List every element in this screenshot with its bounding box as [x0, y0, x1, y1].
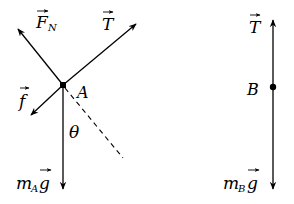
normal-force-arrow [18, 29, 63, 85]
point-a-dot [60, 82, 66, 88]
body-a-diagram: F N T f A θ m A g [16, 11, 136, 194]
svg-text:T: T [249, 17, 262, 37]
tension-label-b: T [249, 15, 262, 37]
svg-text:T: T [102, 14, 115, 34]
weight-label-b: m B g [223, 170, 259, 194]
svg-text:A: A [30, 183, 38, 194]
angle-theta-label: θ [69, 122, 79, 142]
free-body-diagram: F N T f A θ m A g T [0, 0, 294, 204]
friction-force-arrow [31, 85, 63, 115]
svg-text:m: m [16, 173, 32, 193]
body-b-diagram: T B m B g [223, 15, 276, 194]
svg-text:m: m [223, 173, 239, 193]
normal-force-label: F N [35, 11, 58, 33]
svg-text:f: f [17, 91, 28, 111]
svg-text:N: N [47, 22, 58, 33]
tension-label-a: T [102, 12, 115, 34]
svg-text:g: g [39, 173, 50, 193]
weight-label-a: m A g [16, 170, 51, 194]
friction-label: f [17, 88, 29, 111]
svg-text:B: B [237, 183, 245, 194]
point-b-dot [270, 84, 276, 90]
svg-text:g: g [247, 173, 258, 193]
point-a-label: A [75, 83, 89, 102]
point-b-label: B [246, 80, 259, 99]
tension-force-arrow-a [63, 24, 136, 85]
svg-text:F: F [35, 12, 49, 32]
